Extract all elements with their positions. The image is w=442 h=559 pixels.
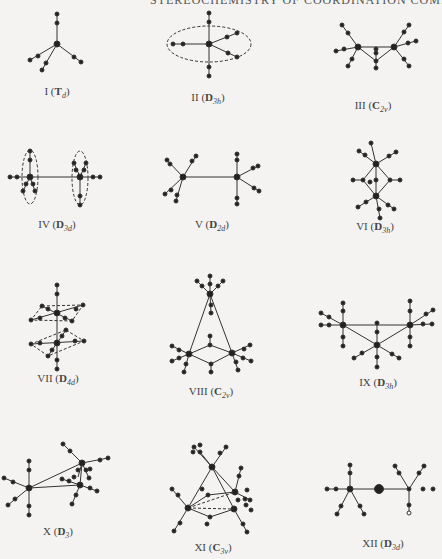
structure-III-diagram xyxy=(334,23,418,70)
structure-XI-diagram xyxy=(170,443,253,534)
structure-VIII-diagram xyxy=(170,274,253,374)
label-XI: XI (C3v) xyxy=(194,541,231,556)
structure-X-diagram xyxy=(2,442,110,517)
label-V: V (D2d) xyxy=(195,218,229,233)
structure-V-diagram xyxy=(163,152,261,206)
structure-II-diagram xyxy=(167,11,251,78)
structure-IV-diagram xyxy=(8,149,102,207)
label-X: X (D3) xyxy=(43,525,73,540)
label-IV: IV (D3d) xyxy=(38,218,75,233)
label-IX: IX (D3h) xyxy=(359,376,397,391)
structure-I-diagram xyxy=(28,12,83,72)
label-XII: XII (D3d) xyxy=(362,537,403,552)
label-VII: VII (D4d) xyxy=(37,372,78,387)
label-II: II (D3h) xyxy=(191,91,224,106)
label-I: I (Td) xyxy=(44,85,69,100)
label-VI: VI (D3h) xyxy=(356,220,394,235)
structure-VII-diagram xyxy=(29,283,86,371)
label-III: III (C2v) xyxy=(355,99,392,114)
structure-IX-diagram xyxy=(319,299,435,369)
label-VIII: VIII (C2v) xyxy=(189,385,234,400)
structure-XII-diagram xyxy=(325,463,435,516)
structure-VI-diagram xyxy=(351,141,402,220)
structure-diagrams xyxy=(0,0,442,559)
